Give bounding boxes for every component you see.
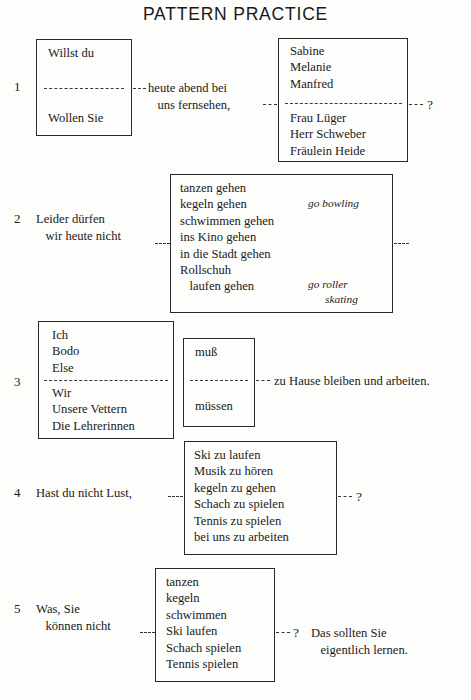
exercise-4-connector-b (338, 496, 352, 497)
exercise-1-right-top-options: Sabine Melanie Manfred (290, 43, 333, 92)
worksheet-page: PATTERN PRACTICE 1 Willst du Wollen Sie … (0, 0, 471, 700)
exercise-3-connector (256, 380, 270, 381)
exercise-5-tail-text: Das sollten Sie eigentlich lernen. (311, 625, 408, 659)
exercise-4-terminator: ? (356, 489, 362, 505)
exercise-2-connector-a (155, 243, 170, 244)
exercise-3-left-bottom-options: Wir Unsere Vettern Die Lehrerinnen (52, 385, 135, 434)
exercise-4-lead-text: Hast du nicht Lust, (36, 485, 132, 501)
exercise-2-connector-b (394, 243, 409, 244)
exercise-2-gloss-roller: go roller (308, 277, 348, 293)
exercise-4-box-items: Ski zu laufen Musik zu hören kegeln zu g… (194, 447, 289, 545)
exercise-1-right-bottom-options: Frau Lüger Herr Schweber Fräulein Heide (290, 110, 366, 159)
exercise-number-2: 2 (14, 211, 21, 227)
exercise-1-right-divider (285, 103, 402, 104)
exercise-1-left-top-options: Willst du (48, 45, 94, 61)
exercise-1-left-divider (44, 88, 124, 89)
exercise-5-lead-text: Was, Sie können nicht (36, 601, 111, 635)
exercise-number-1: 1 (14, 79, 21, 95)
exercise-2-box-items: tanzen gehen kegeln gehen schwimmen gehe… (180, 180, 274, 295)
exercise-2-gloss-skating: skating (325, 292, 358, 308)
exercise-2-gloss-bowling: go bowling (308, 196, 359, 212)
exercise-1-left-bottom-options: Wollen Sie (48, 110, 103, 126)
exercise-1-terminator: ? (427, 97, 433, 113)
exercise-1-connector-c (409, 104, 423, 105)
exercise-1-middle-text: heute abend bei uns fernsehen, (148, 80, 230, 114)
exercise-3-tail-text: zu Hause bleiben und arbeiten. (274, 373, 430, 389)
exercise-1-connector-b (263, 104, 277, 105)
exercise-5-connector-a (140, 632, 155, 633)
exercise-3-middle-bottom-option: müssen (195, 398, 233, 414)
exercise-3-middle-top-option: muß (195, 344, 217, 360)
exercise-1-connector-a (133, 88, 146, 89)
exercise-3-middle-divider (190, 380, 248, 381)
exercise-5-connector-b (276, 632, 290, 633)
exercise-number-3: 3 (14, 374, 21, 390)
exercise-3-left-divider (44, 380, 168, 381)
exercise-5-terminator: ? (293, 625, 299, 641)
exercise-number-4: 4 (14, 485, 21, 501)
exercise-5-box-items: tanzen kegeln schwimmen Ski laufen Schac… (166, 574, 241, 672)
page-title: PATTERN PRACTICE (0, 4, 471, 25)
exercise-2-lead-text: Leider dürfen wir heute nicht (36, 211, 121, 245)
exercise-3-left-top-options: Ich Bodo Else (52, 327, 79, 376)
exercise-number-5: 5 (14, 601, 21, 617)
exercise-4-connector-a (168, 496, 183, 497)
